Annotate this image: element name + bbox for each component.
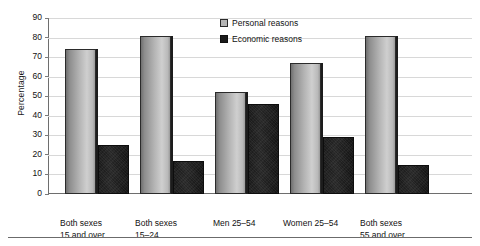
x-axis-label-2-line1: Men 25–54 — [213, 218, 256, 228]
gridline-70: 70 — [48, 57, 472, 58]
tick-mark-50 — [45, 96, 49, 97]
x-axis-label-1-line1: Both sexes — [135, 218, 177, 228]
legend-swatch-personal-icon — [220, 19, 228, 27]
y-tick-label-10: 10 — [18, 168, 42, 179]
bar-personal-0 — [65, 49, 96, 194]
x-axis-label-4-line1: Both sexes — [360, 218, 402, 228]
legend-swatch-economic-icon — [220, 35, 228, 43]
tick-mark-60 — [45, 76, 49, 77]
tick-mark-40 — [45, 115, 49, 116]
gridline-50: 50 — [48, 96, 472, 97]
bar-personal-2 — [215, 92, 246, 194]
y-tick-label-70: 70 — [18, 51, 42, 62]
y-tick-label-30: 30 — [18, 129, 42, 140]
legend-label-personal: Personal reasons — [232, 18, 298, 28]
bar-chart-figure: Percentage 90 80 70 60 50 40 — [0, 0, 480, 246]
y-tick-label-0: 0 — [18, 188, 42, 199]
y-tick-label-60: 60 — [18, 71, 42, 82]
tick-mark-20 — [45, 154, 49, 155]
tick-mark-10 — [45, 174, 49, 175]
bar-economic-2 — [248, 104, 279, 194]
bar-personal-3 — [290, 63, 321, 194]
bar-personal-4 — [365, 36, 396, 194]
y-tick-label-80: 80 — [18, 32, 42, 43]
bar-economic-4 — [398, 165, 429, 194]
bottom-rule-divider — [8, 237, 472, 238]
tick-mark-30 — [45, 135, 49, 136]
y-axis-line — [48, 18, 49, 194]
gridline-60: 60 — [48, 77, 472, 78]
tick-mark-90 — [45, 18, 49, 19]
x-axis-label-1-line2: 15–24 — [135, 230, 177, 242]
tick-mark-0 — [45, 194, 49, 195]
y-tick-label-90: 90 — [18, 12, 42, 23]
legend-item-economic-reasons: Economic reasons — [220, 32, 302, 45]
y-tick-label-50: 50 — [18, 90, 42, 101]
bar-economic-3 — [323, 137, 354, 194]
bar-economic-1 — [173, 161, 204, 194]
x-axis-label-2: Men 25–54 — [213, 218, 256, 230]
y-tick-label-20: 20 — [18, 149, 42, 160]
y-tick-label-40: 40 — [18, 110, 42, 121]
bar-economic-0 — [98, 145, 129, 194]
tick-mark-70 — [45, 57, 49, 58]
x-axis-label-4-line2: 55 and over — [360, 230, 405, 242]
x-axis-label-0-line1: Both sexes — [60, 218, 102, 228]
gridline-0: 0 — [48, 194, 472, 195]
x-axis-label-0-line2: 15 and over — [60, 230, 105, 242]
legend-item-personal-reasons: Personal reasons — [220, 16, 302, 29]
x-axis-label-3-line1: Women 25–54 — [283, 218, 338, 228]
tick-mark-80 — [45, 37, 49, 38]
x-axis-label-3: Women 25–54 — [283, 218, 338, 230]
bar-personal-1 — [140, 36, 171, 194]
legend: Personal reasons Economic reasons — [220, 16, 302, 48]
legend-label-economic: Economic reasons — [232, 34, 302, 44]
